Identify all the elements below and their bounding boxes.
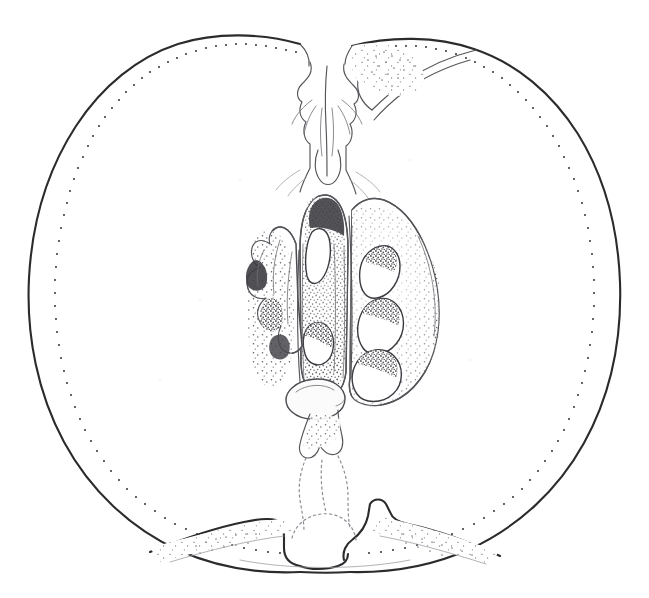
botanical-illustration bbox=[0, 0, 649, 598]
skin-base-closure bbox=[300, 572, 350, 573]
illustration-canvas bbox=[0, 0, 649, 598]
carpel-center bbox=[295, 190, 355, 405]
locule-left-notch-lower bbox=[269, 334, 290, 359]
